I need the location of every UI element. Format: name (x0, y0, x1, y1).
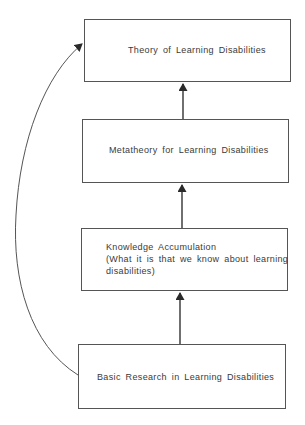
node-theory-label: Theory of Learning Disabilities (128, 44, 266, 56)
node-basic-research: Basic Research in Learning Disabilities (78, 344, 286, 409)
curved-arrow-basic-to-theory (15, 44, 82, 375)
node-basic-research-label: Basic Research in Learning Disabilities (97, 371, 274, 383)
diagram-canvas: Theory of Learning Disabilities Metatheo… (0, 0, 305, 425)
node-knowledge-text: Knowledge Accumulation (What it is that … (106, 241, 278, 277)
node-metatheory: Metatheory for Learning Disabilities (82, 119, 289, 183)
node-knowledge-sublabel-2: disabilities) (106, 265, 278, 277)
node-metatheory-label: Metatheory for Learning Disabilities (109, 144, 269, 156)
node-knowledge-accumulation: Knowledge Accumulation (What it is that … (81, 228, 288, 291)
node-knowledge-label: Knowledge Accumulation (106, 241, 278, 253)
node-theory: Theory of Learning Disabilities (84, 19, 291, 82)
node-knowledge-sublabel-1: (What it is that we know about learning (106, 253, 278, 265)
